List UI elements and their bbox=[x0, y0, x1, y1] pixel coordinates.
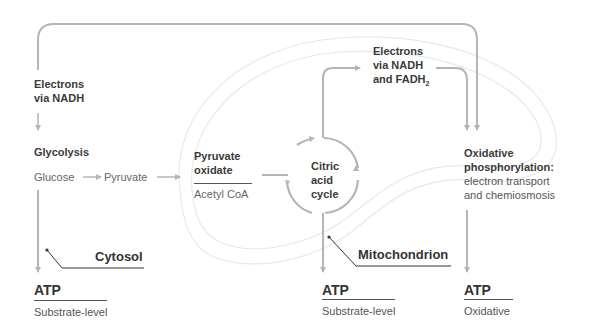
glycolysis-title: Glycolysis bbox=[34, 145, 89, 159]
fadh-text: and FADH bbox=[373, 73, 426, 85]
electrons-fadh-line3: and FADH2 bbox=[373, 72, 429, 91]
arrow-electrons-to-oxphos bbox=[436, 68, 467, 130]
electrons-nadh-fadh2-label: Electrons via NADH and FADH2 bbox=[373, 44, 429, 91]
electrons-fadh-line2: via NADH bbox=[373, 58, 429, 72]
fadh-subscript: 2 bbox=[426, 80, 430, 87]
atp-oxidative-rule bbox=[464, 299, 513, 300]
citric-acid-cycle-label: Citric acid cycle bbox=[311, 159, 339, 201]
atp-cycle-label: ATP bbox=[322, 283, 349, 297]
electrons-nadh-label: Electrons via NADH bbox=[34, 77, 84, 105]
acetyl-coa-label: Acetyl CoA bbox=[194, 187, 248, 201]
citric-line2: acid bbox=[311, 173, 339, 187]
pyruvate-oxidate-rule bbox=[194, 183, 252, 184]
arrow-cycle-to-electrons bbox=[323, 68, 360, 138]
pyruvate-oxidate-label: Pyruvate oxidate bbox=[194, 149, 240, 177]
citric-line3: cycle bbox=[311, 187, 339, 201]
electrons-fadh-line1: Electrons bbox=[373, 44, 429, 58]
oxphos-line4: and chemiosmosis bbox=[464, 188, 555, 202]
atp-glycolysis-label: ATP bbox=[34, 283, 61, 297]
atp-cycle-type: Substrate-level bbox=[322, 304, 395, 318]
atp-cycle-rule bbox=[322, 299, 395, 300]
cytosol-label: Cytosol bbox=[95, 250, 143, 264]
oxphos-line1: Oxidative bbox=[464, 146, 555, 160]
citric-line1: Citric bbox=[311, 159, 339, 173]
atp-oxidative-type: Oxidative bbox=[464, 304, 510, 318]
atp-glycolysis-rule bbox=[34, 300, 107, 301]
mitochondrion-label: Mitochondrion bbox=[358, 248, 448, 262]
electrons-nadh-line2: via NADH bbox=[34, 91, 84, 105]
oxphos-line2: phosphorylation: bbox=[464, 160, 555, 174]
oxidative-phosphorylation-label: Oxidative phosphorylation: electron tran… bbox=[464, 146, 555, 202]
pyruvate-oxidate-line2: oxidate bbox=[194, 163, 240, 177]
atp-oxidative-label: ATP bbox=[464, 283, 491, 297]
pyruvate-oxidate-line1: Pyruvate bbox=[194, 149, 240, 163]
pyruvate-label: Pyruvate bbox=[104, 170, 147, 184]
atp-glycolysis-type: Substrate-level bbox=[34, 305, 107, 319]
glucose-label: Glucose bbox=[34, 170, 74, 184]
electrons-nadh-line1: Electrons bbox=[34, 77, 84, 91]
oxphos-line3: electron transport bbox=[464, 174, 555, 188]
